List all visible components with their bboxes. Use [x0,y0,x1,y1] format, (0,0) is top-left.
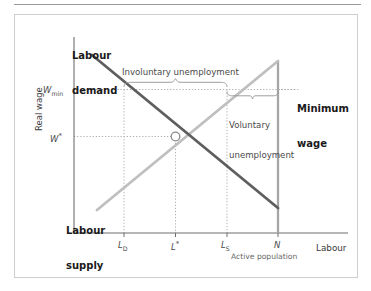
x-tick-ld-subscript: D [123,245,128,252]
minimum-wage-label-line1: Minimum [297,103,349,115]
labour-supply-label-line1: Labour [66,225,105,237]
y-tick-wmin-subscript: min [51,90,63,97]
y-tick-wmin: Wmin [43,85,63,97]
voluntary-unemployment-label: Voluntary unemployment [229,100,294,180]
minimum-wage-label-line2: wage [297,138,349,150]
y-tick-wstar-superscript: * [58,132,62,140]
x-tick-ls-subscript: S [226,245,230,252]
involuntary-unemployment-brace [124,79,227,87]
x-tick-lstar: L* [171,240,179,252]
involuntary-unemployment-label: Involuntary unemployment [122,67,239,77]
x-axis-title: Labour [316,243,346,253]
x-tick-ld: LD [118,240,128,252]
labour-demand-label-line1: Labour [72,50,117,62]
voluntary-unemployment-line2: unemployment [229,150,294,160]
active-population-note: Active population [231,252,297,261]
minimum-wage-label: Minimum wage [297,80,349,172]
y-tick-wstar: W* [50,132,62,144]
labour-supply-label-line2: supply [66,260,105,272]
labour-demand-label-line2: demand [72,85,117,97]
figure-root: Real wage Labour Labour demand Labour su… [0,0,371,291]
labour-supply-label: Labour supply [66,202,105,291]
x-tick-n-symbol: N [274,240,280,250]
equilibrium-point [171,132,180,141]
x-tick-lstar-superscript: * [176,240,180,248]
x-tick-ls: LS [221,240,230,252]
voluntary-unemployment-line1: Voluntary [229,120,294,130]
labour-demand-label: Labour demand [72,27,117,119]
x-tick-n: N [274,240,280,250]
